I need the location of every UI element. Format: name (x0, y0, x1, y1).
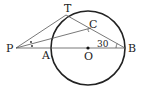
label-p: P (6, 42, 14, 55)
label-t: T (64, 2, 72, 15)
label-c: C (89, 18, 97, 31)
geometry-figure: P A O B T C 30 (0, 0, 142, 99)
label-a: A (41, 49, 51, 62)
bisector-dot-1 (30, 41, 32, 43)
label-o: O (84, 50, 93, 63)
bisector-dot-2 (31, 45, 33, 47)
segment-pc (16, 28, 91, 48)
label-b: B (128, 42, 136, 55)
angle-arc-b (116, 44, 117, 48)
angle-label-30: 30 (97, 39, 109, 49)
segment-pt (16, 15, 66, 48)
